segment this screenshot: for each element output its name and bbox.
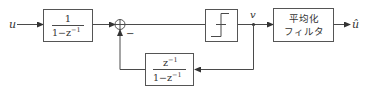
- filter-label-line1: 平均化: [289, 13, 319, 24]
- minus-sign: −: [126, 28, 134, 39]
- block-diagram: u 1 1−z−1 − v 平均化 フィルタ û z−1: [0, 0, 371, 93]
- filter-label-line2: フィルタ: [284, 26, 324, 37]
- summing-junction: [115, 20, 125, 30]
- integrator-block: 1 1−z−1: [44, 10, 93, 42]
- output-label: û: [352, 18, 359, 31]
- integrator-numerator: 1: [65, 13, 71, 24]
- quantizer-block: [206, 10, 238, 42]
- feedback-block: z−1 1−z−1: [146, 54, 194, 86]
- input-label: u: [9, 18, 16, 31]
- node-label-v: v: [250, 9, 256, 20]
- averaging-filter-block: 平均化 フィルタ: [274, 9, 334, 42]
